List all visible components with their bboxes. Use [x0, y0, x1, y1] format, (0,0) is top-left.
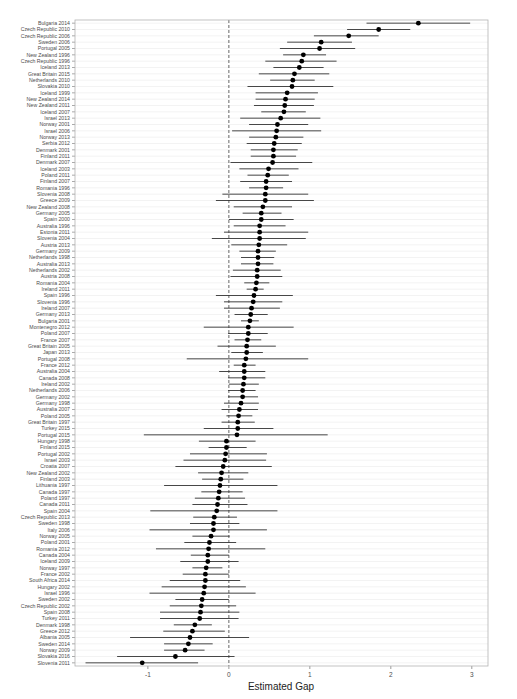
point-estimate — [203, 572, 208, 577]
y-tick-label: Greece 2012 — [40, 628, 70, 634]
point-estimates — [140, 21, 421, 665]
point-estimate — [219, 470, 224, 475]
point-estimate — [188, 635, 193, 640]
point-estimate — [416, 21, 421, 26]
point-estimate — [264, 179, 269, 184]
y-tick-label: Romania 2012 — [36, 546, 70, 552]
point-estimate — [239, 401, 244, 406]
x-tick-label: 2 — [389, 671, 393, 678]
y-tick-label: New Zealand 1996 — [26, 52, 70, 58]
y-tick-label: Denmark 2001 — [36, 147, 70, 153]
y-tick-label: Bulgaria 2014 — [38, 20, 70, 26]
y-tick-label: Czech Republic 2010 — [21, 26, 70, 32]
point-estimate — [237, 407, 242, 412]
point-estimate — [241, 382, 246, 387]
point-estimate — [376, 27, 381, 32]
y-tick-label: Portugal 2005 — [38, 45, 70, 51]
y-tick-label: New Zealand 2002 — [26, 470, 70, 476]
y-tick-label: Spain 2000 — [44, 216, 70, 222]
y-tick-label: Czech Republic 2006 — [21, 33, 70, 39]
y-tick-label: Israel 2006 — [44, 128, 70, 134]
point-estimate — [242, 363, 247, 368]
y-tick-label: Netherlands 1998 — [29, 254, 70, 260]
point-estimate — [203, 578, 208, 583]
point-estimate — [248, 312, 253, 317]
point-estimate — [204, 565, 209, 570]
point-estimate — [197, 616, 202, 621]
point-estimate — [254, 280, 259, 285]
point-estimate — [246, 325, 251, 330]
y-axis-labels: Bulgaria 2014Czech Republic 2010Czech Re… — [21, 20, 75, 666]
y-tick-label: Great Britain 2005 — [28, 343, 70, 349]
point-estimate — [242, 369, 247, 374]
point-estimate — [186, 641, 191, 646]
point-estimate — [301, 52, 306, 57]
x-tick-label: -1 — [145, 671, 151, 678]
point-estimate — [192, 622, 197, 627]
y-tick-label: South Africa 2014 — [29, 577, 70, 583]
y-tick-label: Great Britain 1997 — [28, 419, 70, 425]
y-tick-label: Finland 2011 — [40, 153, 70, 159]
y-tick-label: Turkey 2011 — [42, 615, 70, 621]
point-estimate — [275, 122, 280, 127]
point-estimate — [240, 394, 245, 399]
point-estimate — [235, 426, 240, 431]
point-estimate — [271, 147, 276, 152]
x-tick-label: 3 — [470, 671, 474, 678]
y-tick-label: Australia 1996 — [37, 223, 70, 229]
y-tick-label: Germany 2009 — [36, 248, 70, 254]
y-tick-label: Ireland 2002 — [41, 381, 70, 387]
point-estimate — [215, 502, 220, 507]
y-tick-label: Portugal 2015 — [38, 432, 70, 438]
point-estimate — [292, 71, 297, 76]
point-estimate — [278, 116, 283, 121]
point-estimate — [256, 242, 261, 247]
x-tick-label: 1 — [308, 671, 312, 678]
point-estimate — [255, 274, 260, 279]
point-estimate — [218, 477, 223, 482]
y-tick-label: Norway 2005 — [39, 533, 70, 539]
y-tick-label: Iceland 2003 — [40, 166, 70, 172]
point-estimate — [173, 654, 178, 659]
point-estimate — [212, 515, 217, 520]
y-tick-label: Czech Republic 2013 — [21, 514, 70, 520]
y-tick-label: Sweden 2006 — [38, 39, 70, 45]
y-tick-label: Germany 2002 — [36, 394, 70, 400]
point-estimate — [290, 84, 295, 89]
point-estimate — [270, 160, 275, 165]
point-estimate — [256, 255, 261, 260]
point-estimate — [224, 445, 229, 450]
y-tick-label: Romania 1996 — [36, 185, 70, 191]
y-tick-label: Slovenia 2004 — [37, 235, 70, 241]
y-tick-label: Slovakia 2016 — [37, 653, 70, 659]
point-estimate — [274, 128, 279, 133]
y-tick-label: Canada 2011 — [39, 501, 70, 507]
point-estimate — [199, 603, 204, 608]
y-tick-label: Norway 1997 — [39, 565, 70, 571]
y-tick-label: Germany 1998 — [36, 400, 70, 406]
y-tick-label: Israel 2013 — [44, 115, 70, 121]
y-tick-label: Finland 2015 — [40, 444, 70, 450]
y-tick-label: Serbia 2012 — [42, 140, 70, 146]
y-tick-label: Albania 2005 — [40, 634, 70, 640]
confidence-intervals — [86, 23, 471, 663]
y-tick-label: Japan 2013 — [43, 349, 70, 355]
y-tick-label: Czech Republic 2002 — [21, 603, 70, 609]
point-estimate — [285, 90, 290, 95]
point-estimate — [183, 648, 188, 653]
y-tick-label: Ireland 2011 — [42, 286, 71, 292]
point-estimate — [257, 230, 262, 235]
point-estimate — [206, 546, 211, 551]
point-estimate — [256, 261, 261, 266]
y-tick-label: Sweden 2014 — [38, 641, 70, 647]
y-tick-label: Iceland 2009 — [40, 558, 70, 564]
point-estimate — [209, 534, 214, 539]
y-tick-label: Iceland 1999 — [40, 90, 70, 96]
y-tick-label: Portugal 2008 — [38, 356, 70, 362]
point-estimate — [248, 318, 253, 323]
y-tick-label: Iceland 2007 — [40, 109, 70, 115]
point-estimate — [265, 173, 270, 178]
point-estimate — [223, 451, 228, 456]
y-tick-label: Hungary 2002 — [37, 584, 70, 590]
y-tick-label: Turkey 2015 — [41, 425, 70, 431]
